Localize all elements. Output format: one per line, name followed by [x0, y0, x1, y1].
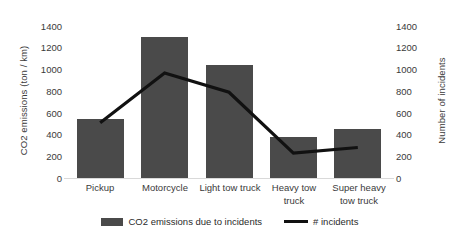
cat-label-heavy-tow-truck: Heavy tow truck — [258, 182, 330, 207]
legend-item-incidents: # incidents — [284, 216, 358, 227]
y-tick-left-0: 0 — [28, 174, 62, 184]
chart-legend: CO2 emissions due to incidents # inciden… — [0, 216, 460, 227]
x-axis-line — [64, 178, 394, 179]
y-tick-left-200: 200 — [28, 152, 62, 162]
cat-label-motorcycle: Motorcycle — [129, 182, 201, 195]
y-tick-right-1400: 1400 — [396, 22, 430, 32]
y-axis-right-ticks: 1400 1200 1000 800 600 400 200 0 — [396, 0, 430, 185]
x-axis-category-labels: Pickup Motorcycle Light tow truck Heavy … — [68, 182, 390, 214]
y-tick-left-800: 800 — [28, 87, 62, 97]
y-tick-left-600: 600 — [28, 109, 62, 119]
y-tick-right-200: 200 — [396, 152, 430, 162]
y-tick-right-800: 800 — [396, 87, 430, 97]
incidents-line-series — [68, 20, 390, 178]
y-tick-right-1200: 1200 — [396, 43, 430, 53]
legend-item-co2-emissions: CO2 emissions due to incidents — [101, 216, 262, 227]
legend-label-co2-emissions: CO2 emissions due to incidents — [128, 216, 262, 227]
y-tick-right-600: 600 — [396, 109, 430, 119]
cat-label-line1: Light tow truck — [194, 182, 266, 195]
chart-container: CO2 emissions (ton / km) Number of incid… — [0, 0, 460, 238]
legend-bar-swatch-icon — [101, 218, 123, 226]
cat-label-pickup: Pickup — [64, 182, 136, 195]
cat-label-line1: Super heavy — [323, 182, 395, 195]
y-tick-right-0: 0 — [396, 174, 430, 184]
y-axis-right-title: Number of incidents — [436, 26, 447, 176]
y-tick-left-1000: 1000 — [28, 65, 62, 75]
y-axis-left-title: CO2 emissions (ton / km) — [18, 26, 29, 176]
y-tick-right-400: 400 — [396, 130, 430, 140]
cat-label-super-heavy-tow-truck: Super heavy tow truck — [323, 182, 395, 207]
y-tick-left-1200: 1200 — [28, 43, 62, 53]
y-tick-right-1000: 1000 — [396, 65, 430, 75]
y-tick-left-1400: 1400 — [28, 22, 62, 32]
y-tick-left-400: 400 — [28, 130, 62, 140]
cat-label-line1: Heavy tow — [258, 182, 330, 195]
plot-area — [68, 20, 390, 178]
legend-line-swatch-icon — [284, 220, 308, 223]
legend-label-incidents: # incidents — [313, 216, 358, 227]
cat-label-line1: Motorcycle — [129, 182, 201, 195]
cat-label-line1: Pickup — [64, 182, 136, 195]
cat-label-line2: tow truck — [323, 195, 395, 208]
cat-label-light-tow-truck: Light tow truck — [194, 182, 266, 195]
cat-label-line2: truck — [258, 195, 330, 208]
y-axis-left-ticks: 1400 1200 1000 800 600 400 200 0 — [28, 0, 62, 185]
incidents-polyline — [100, 73, 358, 153]
